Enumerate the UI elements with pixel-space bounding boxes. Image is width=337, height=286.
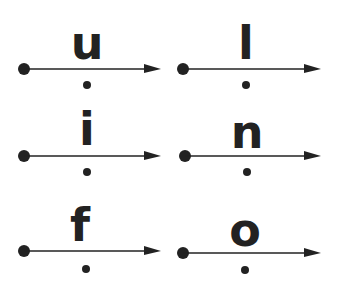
letter-card-o: o: [168, 190, 336, 285]
letter-glyph: l: [238, 20, 254, 66]
letter-glyph: o: [229, 207, 261, 253]
letter-card-u: u: [0, 0, 168, 95]
letter-card-n: n: [168, 95, 336, 190]
letter-glyph: i: [79, 106, 95, 152]
letter-card-f: f: [0, 190, 168, 285]
letter-glyph: n: [231, 109, 264, 155]
letter-card-i: i: [0, 95, 168, 190]
letter-glyph: f: [70, 202, 90, 248]
letter-glyph: u: [71, 20, 104, 66]
letter-card-l: l: [168, 0, 336, 95]
